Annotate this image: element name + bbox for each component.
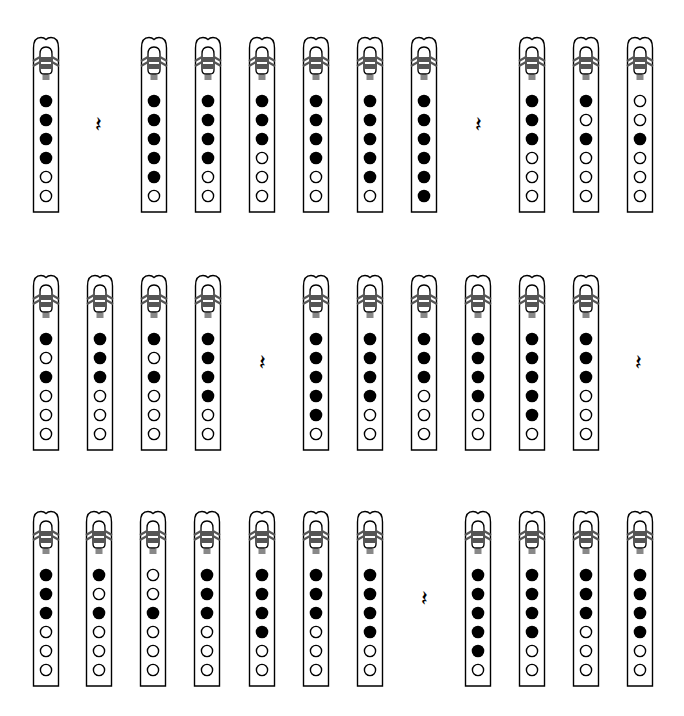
fingering-row-2: 𝄽𝄽 — [0, 274, 684, 454]
fingering-row-1: 𝄽𝄽 — [0, 36, 684, 216]
whistle-icon — [518, 36, 546, 214]
whistle-icon — [572, 510, 600, 688]
whistle-icon — [572, 36, 600, 214]
whistle-fingering-diagram — [139, 510, 167, 688]
quarter-rest-icon: 𝄽 — [95, 114, 102, 136]
whistle-icon — [518, 510, 546, 688]
whistle-fingering-diagram — [248, 510, 276, 688]
whistle-icon — [302, 274, 330, 452]
whistle-fingering-diagram — [410, 274, 438, 452]
whistle-fingering-diagram — [626, 36, 654, 214]
whistle-fingering-diagram — [32, 274, 60, 452]
whistle-fingering-diagram — [140, 274, 168, 452]
whistle-fingering-diagram — [464, 510, 492, 688]
whistle-icon — [85, 510, 113, 688]
fingering-row-3: 𝄽 — [0, 510, 684, 690]
whistle-icon — [572, 274, 600, 452]
whistle-icon — [32, 274, 60, 452]
whistle-fingering-diagram — [518, 274, 546, 452]
whistle-fingering-diagram — [193, 510, 221, 688]
whistle-fingering-diagram — [302, 36, 330, 214]
whistle-icon — [193, 510, 221, 688]
whistle-fingering-diagram — [248, 36, 276, 214]
whistle-fingering-diagram — [572, 274, 600, 452]
whistle-icon — [518, 274, 546, 452]
whistle-icon — [410, 36, 438, 214]
whistle-fingering-diagram — [410, 36, 438, 214]
whistle-fingering-diagram — [194, 36, 222, 214]
whistle-fingering-diagram — [302, 274, 330, 452]
whistle-icon — [32, 510, 60, 688]
whistle-icon — [139, 510, 167, 688]
whistle-fingering-diagram — [356, 274, 384, 452]
whistle-icon — [302, 36, 330, 214]
whistle-icon — [248, 510, 276, 688]
whistle-fingering-diagram — [356, 36, 384, 214]
whistle-icon — [86, 274, 114, 452]
whistle-fingering-diagram — [518, 510, 546, 688]
whistle-icon — [464, 510, 492, 688]
whistle-fingering-diagram — [194, 274, 222, 452]
whistle-fingering-diagram — [626, 510, 654, 688]
whistle-fingering-diagram — [32, 510, 60, 688]
whistle-icon — [356, 510, 384, 688]
whistle-icon — [248, 36, 276, 214]
whistle-fingering-diagram — [86, 274, 114, 452]
whistle-fingering-diagram — [302, 510, 330, 688]
whistle-icon — [32, 36, 60, 214]
whistle-icon — [194, 274, 222, 452]
whistle-fingering-diagram — [140, 36, 168, 214]
whistle-icon — [464, 274, 492, 452]
whistle-icon — [302, 510, 330, 688]
whistle-icon — [140, 274, 168, 452]
whistle-icon — [410, 274, 438, 452]
quarter-rest-icon: 𝄽 — [475, 114, 482, 136]
whistle-icon — [626, 36, 654, 214]
whistle-icon — [626, 510, 654, 688]
whistle-fingering-diagram — [85, 510, 113, 688]
whistle-icon — [194, 36, 222, 214]
quarter-rest-icon: 𝄽 — [421, 588, 428, 610]
whistle-fingering-diagram — [518, 36, 546, 214]
whistle-icon — [356, 36, 384, 214]
whistle-icon — [140, 36, 168, 214]
whistle-fingering-diagram — [572, 36, 600, 214]
quarter-rest-icon: 𝄽 — [635, 352, 642, 374]
whistle-icon — [356, 274, 384, 452]
whistle-fingering-diagram — [356, 510, 384, 688]
whistle-fingering-diagram — [32, 36, 60, 214]
quarter-rest-icon: 𝄽 — [259, 352, 266, 374]
whistle-fingering-diagram — [464, 274, 492, 452]
whistle-fingering-diagram — [572, 510, 600, 688]
